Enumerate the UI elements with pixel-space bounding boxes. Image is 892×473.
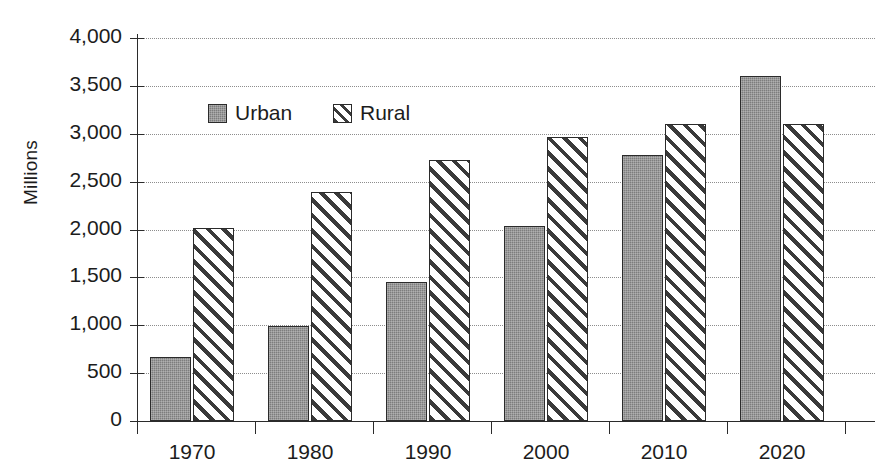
y-axis-tick-label: 2,000 <box>10 216 122 240</box>
x-axis-tick-label: 1970 <box>132 440 252 464</box>
y-axis-tick-label: 2,500 <box>10 168 122 192</box>
y-axis-tick-label: 0 <box>10 407 122 431</box>
bar-urban <box>622 155 663 421</box>
x-axis-tick-label: 2010 <box>604 440 724 464</box>
bar-urban <box>740 76 781 421</box>
x-axis-tick <box>255 421 256 434</box>
x-axis-line <box>137 421 875 422</box>
y-axis-tick-label: 1,000 <box>10 311 122 335</box>
y-axis-tick-label: 3,500 <box>10 72 122 96</box>
x-axis-tick-label: 1990 <box>368 440 488 464</box>
y-axis-tick-label: 4,000 <box>10 24 122 48</box>
x-axis-tick-label: 2000 <box>486 440 606 464</box>
y-axis-tick-label: 500 <box>10 359 122 383</box>
x-axis-tick <box>137 421 138 434</box>
rural-swatch-icon <box>333 104 352 123</box>
bar-rural <box>783 124 824 421</box>
x-axis-tick <box>373 421 374 434</box>
y-axis-tick <box>130 325 144 326</box>
urban-swatch-icon <box>208 104 227 123</box>
bar-urban <box>268 326 309 421</box>
bar-urban <box>386 282 427 421</box>
plot-area <box>137 38 875 421</box>
legend-label-urban: Urban <box>235 101 292 125</box>
y-axis-tick <box>130 134 144 135</box>
x-axis-tick <box>727 421 728 434</box>
x-axis-tick-label: 1980 <box>250 440 370 464</box>
y-axis-tick-label: 1,500 <box>10 263 122 287</box>
legend-item-urban: Urban <box>208 101 292 125</box>
y-axis-tick <box>130 373 144 374</box>
x-axis-tick <box>845 421 846 434</box>
y-axis-tick <box>130 38 144 39</box>
bar-rural <box>429 160 470 421</box>
bar-rural <box>547 137 588 421</box>
bar-rural <box>311 192 352 421</box>
legend-item-rural: Rural <box>333 101 410 125</box>
y-axis-tick-label: 3,000 <box>10 120 122 144</box>
y-axis-tick <box>130 86 144 87</box>
gridline <box>137 38 875 39</box>
x-axis-tick <box>609 421 610 434</box>
bar-urban <box>504 226 545 421</box>
x-axis-tick-label: 2020 <box>722 440 842 464</box>
legend-label-rural: Rural <box>360 101 410 125</box>
bar-rural <box>193 228 234 421</box>
y-axis-tick <box>130 182 144 183</box>
y-axis-tick <box>130 277 144 278</box>
bar-rural <box>665 124 706 421</box>
x-axis-tick <box>491 421 492 434</box>
bar-chart: Millions 05001,0001,5002,0002,5003,0003,… <box>0 0 892 473</box>
bar-urban <box>150 357 191 421</box>
y-axis-tick <box>130 230 144 231</box>
